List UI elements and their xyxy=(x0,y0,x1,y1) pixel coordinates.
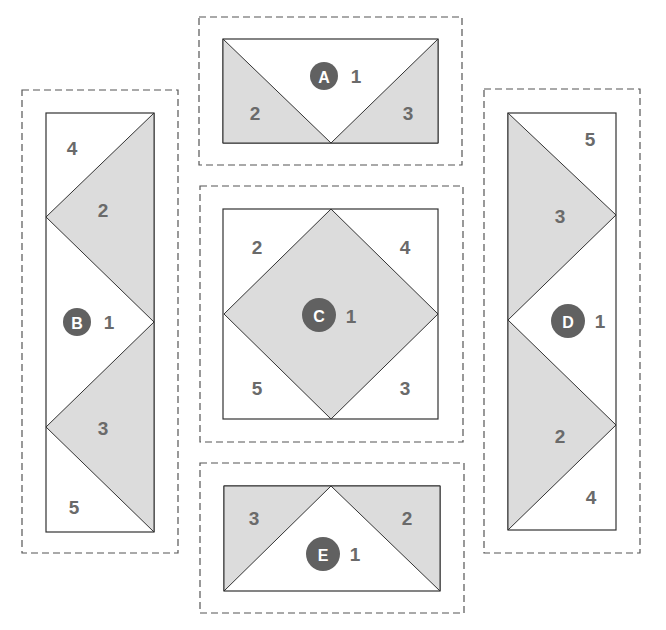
piece-number: 1 xyxy=(104,312,115,333)
piece-number: 3 xyxy=(98,418,109,439)
panel-e: E 1 3 2 xyxy=(200,463,464,613)
panel-a: A 1 2 3 xyxy=(199,17,462,165)
piece-number: 4 xyxy=(400,237,411,258)
badge-label: B xyxy=(71,315,83,332)
piece-number: 2 xyxy=(250,103,261,124)
badge-label: D xyxy=(562,314,574,331)
piece-number: 1 xyxy=(346,306,357,327)
piece-number: 5 xyxy=(585,129,596,150)
panel-c: C 1 2 4 3 5 xyxy=(200,186,463,442)
piece-number: 4 xyxy=(586,487,597,508)
piece-number: 1 xyxy=(351,66,362,87)
piece-number: 3 xyxy=(249,508,260,529)
piece-number: 4 xyxy=(67,138,78,159)
quilt-block-diagram: A 1 2 3 B 1 4 2 3 5 C 1 2 4 3 5 D xyxy=(0,0,666,630)
badge-label: A xyxy=(318,69,330,86)
piece-number: 3 xyxy=(555,206,566,227)
piece-number: 2 xyxy=(555,426,566,447)
piece-number: 2 xyxy=(98,200,109,221)
panel-d: D 1 5 3 2 4 xyxy=(484,89,640,553)
piece-number: 2 xyxy=(252,237,263,258)
piece-number: 2 xyxy=(402,508,413,529)
piece-number: 1 xyxy=(350,544,361,565)
piece-number: 5 xyxy=(252,378,263,399)
panel-b: B 1 4 2 3 5 xyxy=(22,90,178,553)
badge-label: C xyxy=(313,308,325,325)
piece-number: 5 xyxy=(69,497,80,518)
piece-number: 1 xyxy=(595,311,606,332)
piece-number: 3 xyxy=(403,103,414,124)
piece-number: 3 xyxy=(400,378,411,399)
badge-label: E xyxy=(318,547,329,564)
